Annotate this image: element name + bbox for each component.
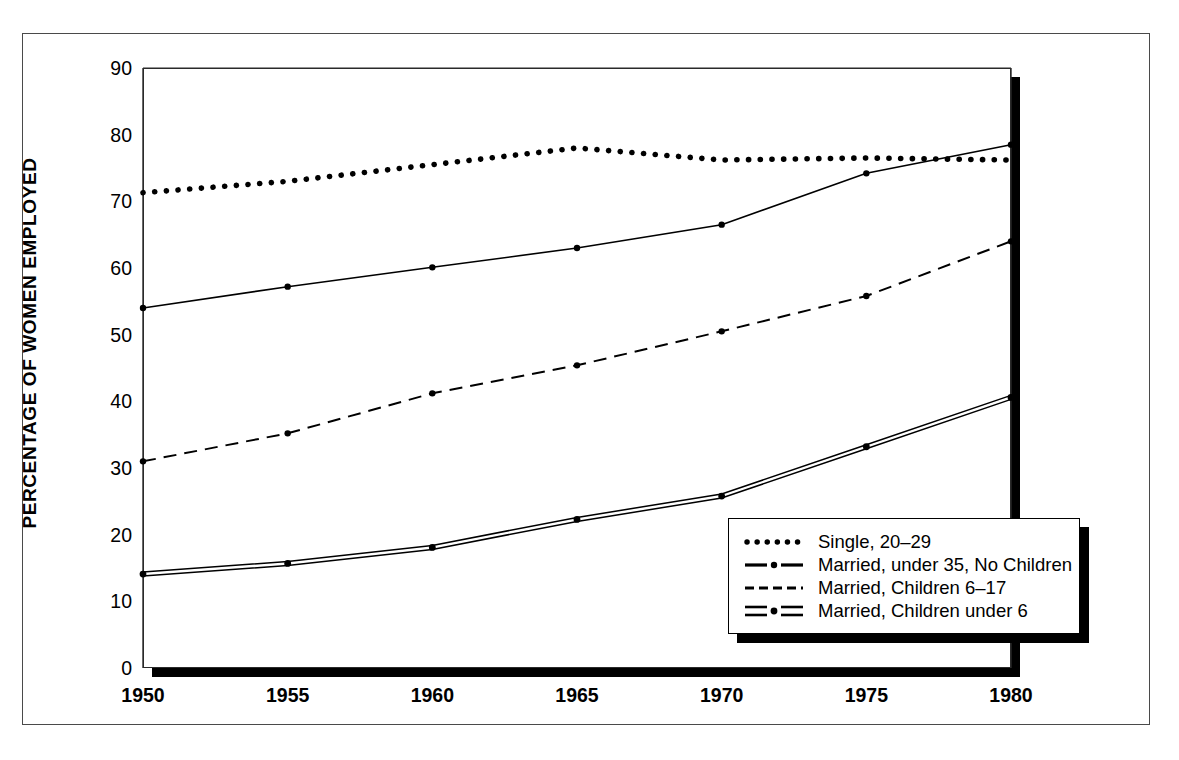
legend-key bbox=[743, 578, 805, 598]
data-point bbox=[574, 362, 580, 368]
x-tick-label: 1980 bbox=[966, 684, 1056, 707]
data-point bbox=[574, 245, 580, 251]
legend-key-dashed-icon bbox=[743, 578, 805, 598]
x-tick-label: 1950 bbox=[98, 684, 188, 707]
y-axis-title: PERCENTAGE OF WOMEN EMPLOYED bbox=[19, 108, 41, 578]
x-tick-label: 1965 bbox=[532, 684, 622, 707]
x-tick-label: 1955 bbox=[243, 684, 333, 707]
data-point bbox=[284, 560, 291, 567]
data-point bbox=[429, 390, 435, 396]
data-point bbox=[863, 443, 870, 450]
data-point bbox=[1008, 238, 1014, 244]
data-point bbox=[863, 293, 869, 299]
data-point bbox=[718, 221, 724, 227]
data-point bbox=[863, 170, 869, 176]
legend-label: Married, Children under 6 bbox=[818, 600, 1028, 622]
data-point bbox=[284, 283, 290, 289]
legend-key bbox=[743, 601, 805, 621]
legend-key-dash-dot-icon bbox=[743, 555, 805, 575]
legend-item: Married, Children 6–17 bbox=[743, 576, 1067, 599]
y-tick-label: 80 bbox=[82, 123, 132, 146]
legend-label: Married, Children 6–17 bbox=[818, 577, 1006, 599]
data-point bbox=[140, 458, 146, 464]
data-point bbox=[429, 264, 435, 270]
y-axis-ticks: 0102030405060708090 bbox=[80, 68, 132, 668]
legend-key bbox=[743, 532, 805, 552]
series-line-1 bbox=[143, 145, 1011, 308]
x-tick-label: 1975 bbox=[821, 684, 911, 707]
y-tick-label: 20 bbox=[82, 523, 132, 546]
legend-label: Married, under 35, No Children bbox=[818, 554, 1072, 576]
x-axis-ticks: 1950195519601965197019751980 bbox=[143, 684, 1011, 714]
data-point bbox=[718, 493, 725, 500]
data-point bbox=[1008, 141, 1014, 147]
legend-label: Single, 20–29 bbox=[818, 531, 931, 553]
chart-figure: PERCENTAGE OF WOMEN EMPLOYED 01020304050… bbox=[0, 0, 1179, 760]
legend-item: Married, under 35, No Children bbox=[743, 553, 1067, 576]
y-tick-label: 30 bbox=[82, 457, 132, 480]
data-point bbox=[140, 571, 147, 578]
x-tick-label: 1960 bbox=[387, 684, 477, 707]
data-point bbox=[574, 516, 581, 523]
y-tick-label: 50 bbox=[82, 323, 132, 346]
data-point bbox=[140, 305, 146, 311]
data-point bbox=[429, 544, 436, 551]
y-tick-label: 60 bbox=[82, 257, 132, 280]
chart-legend: Single, 20–29Married, under 35, No Child… bbox=[728, 518, 1080, 634]
data-point bbox=[284, 430, 290, 436]
series-line-2 bbox=[143, 241, 1011, 461]
legend-key-double-dash-dot-icon bbox=[743, 601, 805, 621]
x-tick-label: 1970 bbox=[677, 684, 767, 707]
legend-item: Single, 20–29 bbox=[743, 530, 1067, 553]
legend-item: Married, Children under 6 bbox=[743, 599, 1067, 622]
legend-key bbox=[743, 555, 805, 575]
y-tick-label: 90 bbox=[82, 57, 132, 80]
data-point bbox=[718, 328, 724, 334]
y-tick-label: 40 bbox=[82, 390, 132, 413]
data-point bbox=[1008, 394, 1015, 401]
y-tick-label: 70 bbox=[82, 190, 132, 213]
y-tick-label: 0 bbox=[82, 657, 132, 680]
legend-key-dotted-icon bbox=[743, 532, 805, 552]
y-tick-label: 10 bbox=[82, 590, 132, 613]
